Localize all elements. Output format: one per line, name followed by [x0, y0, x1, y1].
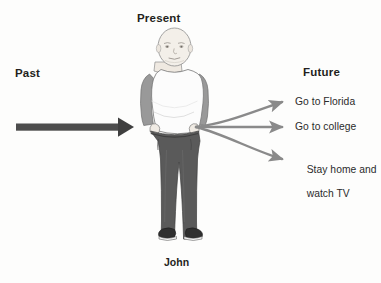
future-option-stay-home: Stay home and watch TV [295, 152, 377, 213]
future-option-stay-home-line2: watch TV [307, 188, 350, 199]
future-option-stay-home-line1: Stay home and [307, 164, 377, 175]
person-figure-john [141, 28, 209, 241]
future-option-college: Go to college [295, 121, 356, 133]
person-caption: John [164, 256, 189, 268]
future-arrow-florida [196, 102, 282, 127]
future-heading: Future [303, 66, 340, 80]
diagram-graphics [0, 0, 381, 283]
shoes [158, 228, 202, 241]
diagram-canvas: Past Present Future Go to Florida Go to … [0, 0, 381, 283]
past-heading: Past [15, 67, 40, 81]
future-arrow-stayhome [196, 127, 282, 159]
past-arrow [16, 118, 134, 137]
present-heading: Present [137, 12, 181, 26]
future-option-florida: Go to Florida [295, 96, 355, 108]
head [156, 28, 192, 66]
future-arrows [196, 102, 282, 159]
